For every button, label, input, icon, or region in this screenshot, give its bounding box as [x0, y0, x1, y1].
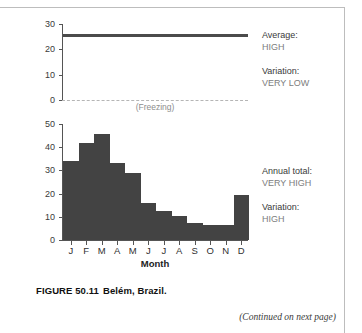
precipitation-bar [141, 203, 157, 240]
precipitation-bar [156, 211, 172, 240]
precipitation-tick-mark: 40 [59, 147, 63, 148]
temperature-tick-label: 20 [45, 45, 55, 54]
month-label: J [157, 246, 171, 256]
temperature-chart: Temperature (°C) 0102030 (Freezing) [24, 22, 250, 112]
figure-caption-text: Belém, Brazil. [103, 285, 167, 296]
month-label: D [234, 246, 248, 256]
month-label: J [64, 246, 78, 256]
month-label: F [79, 246, 93, 256]
precipitation-bar [203, 225, 219, 240]
precipitation-bar [79, 143, 95, 240]
precipitation-tick-label: 50 [45, 120, 55, 129]
precipitation-bar [94, 134, 110, 240]
temperature-tick-label: 30 [45, 20, 55, 29]
precipitation-tick-label: 30 [45, 166, 55, 175]
temperature-tick-mark: 20 [59, 49, 63, 50]
precipitation-bar [234, 195, 250, 240]
annotation-value: HIGH [262, 42, 342, 54]
temperature-tick-label: 0 [50, 96, 55, 105]
annotation-value: HIGH [262, 214, 342, 226]
temperature-series-line [63, 34, 248, 37]
precipitation-bar [125, 173, 141, 240]
month-label: A [110, 246, 124, 256]
precipitation-plot-area: 01020304050 JFMAMJJASOND [62, 124, 248, 240]
precipitation-tick-label: 10 [45, 213, 55, 222]
month-label: O [203, 246, 217, 256]
precipitation-bar [172, 216, 188, 240]
annotation-precipitation-annual-total: Annual total: VERY HIGH [262, 166, 342, 189]
precipitation-tick-label: 40 [45, 143, 55, 152]
precipitation-bar [110, 163, 126, 240]
month-label: S [188, 246, 202, 256]
freezing-label: (Freezing) [62, 102, 248, 112]
annotation-temperature-average: Average: HIGH [262, 30, 342, 53]
precipitation-bar [218, 225, 234, 240]
precipitation-chart: Precipitation (cm) 01020304050 JFMAMJJAS… [24, 122, 250, 272]
month-label: J [141, 246, 155, 256]
page-right-rule [344, 7, 345, 333]
temperature-tick-mark: 30 [59, 24, 63, 25]
precipitation-tick-label: 0 [50, 236, 55, 245]
precipitation-tick-label: 20 [45, 190, 55, 199]
precipitation-x-axis-line [62, 240, 248, 241]
annotation-precipitation-variation: Variation: HIGH [262, 202, 342, 225]
precipitation-bar [63, 161, 79, 240]
month-axis-title: Month [62, 258, 248, 269]
figure-caption-number: FIGURE 50.11 [36, 285, 99, 296]
month-label: A [172, 246, 186, 256]
page-top-rule [0, 7, 345, 8]
precipitation-bar [187, 223, 203, 240]
temperature-plot-area: 0102030 [62, 24, 248, 100]
month-label: N [219, 246, 233, 256]
precipitation-tick-mark: 50 [59, 124, 63, 125]
annotation-temperature-variation: Variation: VERY LOW [262, 66, 342, 89]
figure-caption: FIGURE 50.11Belém, Brazil. [36, 285, 167, 296]
freezing-reference-line [62, 100, 248, 101]
annotation-value: VERY HIGH [262, 178, 342, 190]
temperature-tick-mark: 10 [59, 75, 63, 76]
month-label: M [95, 246, 109, 256]
annotation-value: VERY LOW [262, 78, 342, 90]
continued-on-next-page-note: (Continued on next page) [239, 312, 336, 322]
annotation-term: Variation: [262, 202, 342, 214]
annotation-term: Annual total: [262, 166, 342, 178]
annotation-term: Average: [262, 30, 342, 42]
month-label: M [126, 246, 140, 256]
temperature-tick-label: 10 [45, 71, 55, 80]
annotation-term: Variation: [262, 66, 342, 78]
